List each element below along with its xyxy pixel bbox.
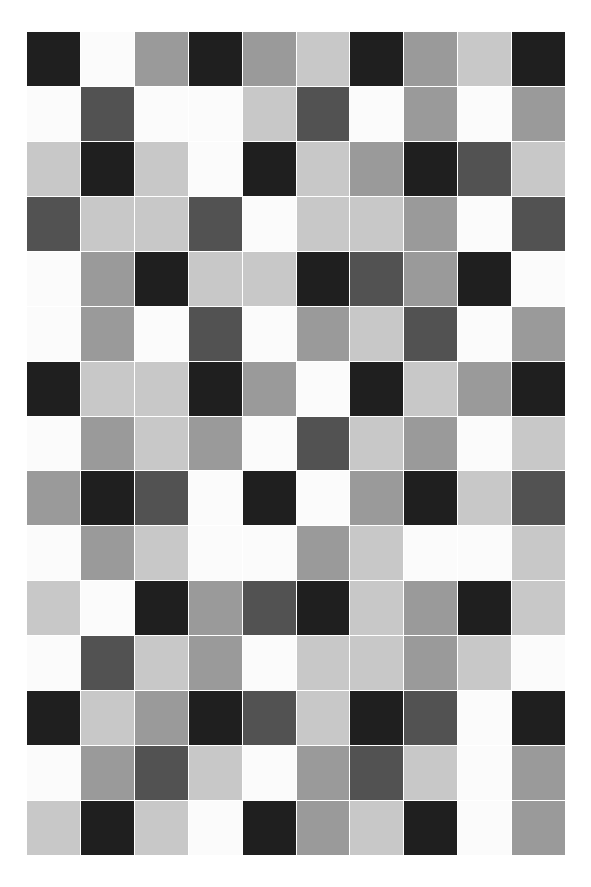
tile-r13-c3: [135, 691, 188, 745]
tile-r14-c10: [512, 746, 565, 800]
tile-r8-c8: [404, 417, 457, 471]
tile-r10-c8: [404, 526, 457, 580]
tile-r7-c2: [81, 362, 134, 416]
tile-r2-c7: [350, 87, 403, 141]
tile-r3-c8: [404, 142, 457, 196]
tile-r14-c8: [404, 746, 457, 800]
tile-r12-c10: [512, 636, 565, 690]
tile-r14-c1: [27, 746, 80, 800]
tile-r10-c1: [27, 526, 80, 580]
tile-r5-c3: [135, 252, 188, 306]
tile-r14-c7: [350, 746, 403, 800]
tile-r2-c10: [512, 87, 565, 141]
tile-r10-c4: [189, 526, 242, 580]
tile-r1-c8: [404, 32, 457, 86]
tile-r10-c7: [350, 526, 403, 580]
tile-r8-c9: [458, 417, 511, 471]
tile-r3-c2: [81, 142, 134, 196]
tile-r10-c6: [297, 526, 350, 580]
tile-r11-c9: [458, 581, 511, 635]
tile-r4-c2: [81, 197, 134, 251]
tile-r4-c3: [135, 197, 188, 251]
tile-r2-c1: [27, 87, 80, 141]
tile-r14-c2: [81, 746, 134, 800]
tile-r9-c1: [27, 471, 80, 525]
tile-r9-c2: [81, 471, 134, 525]
tile-r2-c5: [243, 87, 296, 141]
tile-r11-c10: [512, 581, 565, 635]
tile-r8-c1: [27, 417, 80, 471]
tile-r9-c10: [512, 471, 565, 525]
tile-r15-c3: [135, 801, 188, 855]
tile-r9-c5: [243, 471, 296, 525]
tile-r3-c5: [243, 142, 296, 196]
tile-r13-c4: [189, 691, 242, 745]
tile-r15-c4: [189, 801, 242, 855]
tile-r3-c6: [297, 142, 350, 196]
tile-r3-c9: [458, 142, 511, 196]
tile-r1-c5: [243, 32, 296, 86]
image-canvas: [0, 0, 591, 887]
tile-r10-c10: [512, 526, 565, 580]
tile-r4-c10: [512, 197, 565, 251]
tile-r3-c7: [350, 142, 403, 196]
tile-r13-c10: [512, 691, 565, 745]
tile-r9-c4: [189, 471, 242, 525]
tile-r13-c8: [404, 691, 457, 745]
tile-r6-c3: [135, 307, 188, 361]
tile-r7-c3: [135, 362, 188, 416]
tile-r7-c10: [512, 362, 565, 416]
tile-r2-c3: [135, 87, 188, 141]
tile-r9-c9: [458, 471, 511, 525]
tile-r3-c3: [135, 142, 188, 196]
tile-r7-c1: [27, 362, 80, 416]
tile-r14-c6: [297, 746, 350, 800]
tile-r8-c2: [81, 417, 134, 471]
tile-r3-c1: [27, 142, 80, 196]
tile-r9-c8: [404, 471, 457, 525]
tile-r12-c5: [243, 636, 296, 690]
tile-r2-c8: [404, 87, 457, 141]
tile-r10-c5: [243, 526, 296, 580]
tile-r7-c8: [404, 362, 457, 416]
tile-r11-c4: [189, 581, 242, 635]
tile-r9-c3: [135, 471, 188, 525]
tile-r9-c6: [297, 471, 350, 525]
tile-r11-c2: [81, 581, 134, 635]
tile-r1-c6: [297, 32, 350, 86]
tile-r8-c5: [243, 417, 296, 471]
tile-r10-c9: [458, 526, 511, 580]
tile-r4-c1: [27, 197, 80, 251]
tile-r11-c3: [135, 581, 188, 635]
tile-r1-c1: [27, 32, 80, 86]
tile-r15-c1: [27, 801, 80, 855]
tile-r1-c9: [458, 32, 511, 86]
tile-r14-c9: [458, 746, 511, 800]
tile-r5-c4: [189, 252, 242, 306]
tile-r13-c1: [27, 691, 80, 745]
tile-r3-c4: [189, 142, 242, 196]
tile-r5-c1: [27, 252, 80, 306]
tile-r4-c6: [297, 197, 350, 251]
tile-r12-c4: [189, 636, 242, 690]
tile-r4-c5: [243, 197, 296, 251]
tile-r11-c1: [27, 581, 80, 635]
tile-r12-c3: [135, 636, 188, 690]
tile-r15-c8: [404, 801, 457, 855]
tile-r2-c9: [458, 87, 511, 141]
tile-r14-c5: [243, 746, 296, 800]
tile-r15-c2: [81, 801, 134, 855]
tile-r14-c3: [135, 746, 188, 800]
tile-r5-c9: [458, 252, 511, 306]
tile-r5-c8: [404, 252, 457, 306]
tile-r14-c4: [189, 746, 242, 800]
tile-r13-c9: [458, 691, 511, 745]
tile-r7-c4: [189, 362, 242, 416]
tile-r13-c6: [297, 691, 350, 745]
tile-r13-c7: [350, 691, 403, 745]
tile-r1-c3: [135, 32, 188, 86]
tile-r2-c2: [81, 87, 134, 141]
tile-r15-c7: [350, 801, 403, 855]
tile-r1-c4: [189, 32, 242, 86]
tile-r6-c2: [81, 307, 134, 361]
